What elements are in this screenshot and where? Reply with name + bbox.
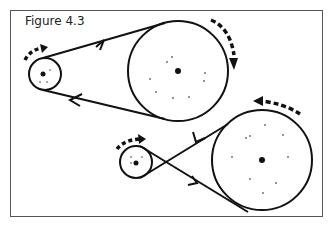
crossed-belt-system <box>117 96 312 212</box>
pulley-diagram <box>0 0 333 225</box>
belt-lower <box>43 90 165 119</box>
belt-cross-up <box>140 124 228 178</box>
belt-arrow-left-icon <box>70 94 82 106</box>
belt-arrow-down-right-icon <box>188 176 197 185</box>
belt-arrow-down-left-icon <box>193 132 205 142</box>
open-belt-system <box>25 20 238 121</box>
rotation-arrow-large-bottom-icon <box>262 101 300 114</box>
